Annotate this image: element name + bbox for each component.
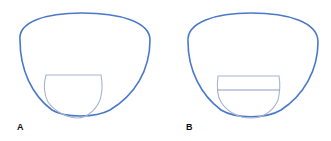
- panel-label-b: B: [186, 122, 193, 132]
- lens-b-diagram: [166, 0, 331, 141]
- segment-b: [217, 76, 279, 118]
- lens-outline-b: [188, 13, 318, 117]
- panel-b: B: [166, 0, 331, 141]
- lens-a-diagram: [0, 0, 165, 141]
- panel-a: A: [0, 0, 165, 141]
- panel-label-a: A: [17, 122, 24, 132]
- lens-outline-a: [20, 13, 150, 116]
- segment-a: [44, 75, 102, 118]
